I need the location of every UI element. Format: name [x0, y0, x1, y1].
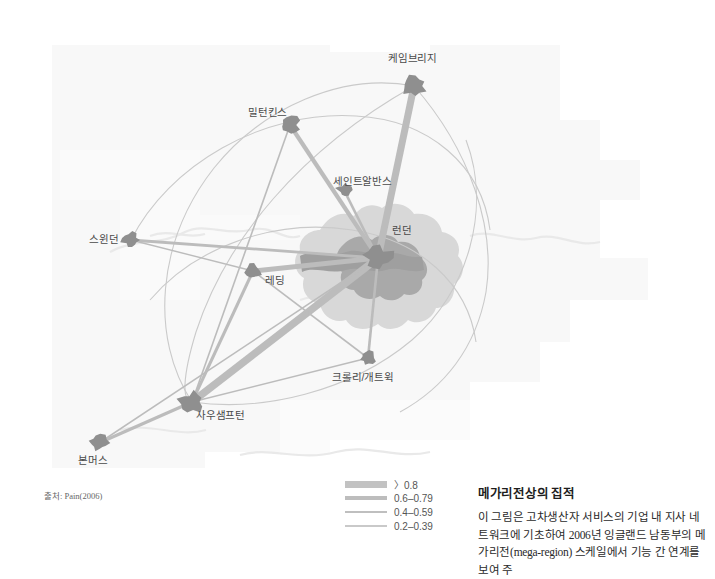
legend-swatch-icon: [345, 496, 387, 501]
legend-label: 0.2–0.39: [394, 521, 433, 532]
city-label-southampton: 사우샘프턴: [196, 407, 245, 422]
city-label-london: 런던: [392, 222, 412, 237]
city-label-reading: 레딩: [265, 272, 285, 287]
city-label-stalbans: 세인트알반스: [333, 173, 392, 188]
legend-item: 0.2–0.39: [345, 519, 465, 533]
legend-item: 〉0.8: [345, 477, 465, 491]
city-label-cambridge: 케임브리지: [388, 50, 437, 65]
legend-label: 0.6–0.79: [394, 493, 433, 504]
legend-swatch-icon: [345, 525, 387, 526]
source-note: 출처: Pain(2006): [44, 489, 102, 501]
legend-label: 0.4–0.59: [394, 507, 433, 518]
legend-swatch-icon: [345, 511, 387, 513]
city-label-bournemouth: 본머스: [78, 452, 107, 467]
legend: 〉0.8 0.6–0.79 0.4–0.59 0.2–0.39: [345, 477, 465, 533]
legend-label: 〉0.8: [394, 477, 418, 492]
legend-swatch-icon: [345, 481, 387, 488]
city-label-crawley: 크롤리/개트윅: [332, 369, 394, 384]
legend-item: 0.6–0.79: [345, 491, 465, 505]
caption-body: 이 그림은 고차생산자 서비스의 기업 내 지사 네트워크에 기초하여 2006…: [478, 509, 710, 579]
caption-title: 메가리전상의 집적: [478, 483, 710, 502]
legend-item: 0.4–0.59: [345, 505, 465, 519]
city-label-swindon: 스윈던: [89, 231, 118, 246]
caption: 메가리전상의 집적 이 그림은 고차생산자 서비스의 기업 내 지사 네트워크에…: [478, 483, 710, 579]
city-label-milton: 밀턴킨스: [248, 104, 287, 119]
